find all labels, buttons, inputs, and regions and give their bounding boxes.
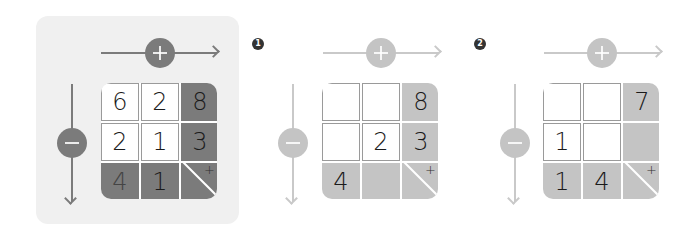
- plus-label: +: [646, 163, 657, 176]
- plus-circle-icon: [366, 38, 396, 68]
- minus-label: _: [627, 186, 634, 199]
- minus-circle-icon: [57, 128, 87, 158]
- arrow-right-icon: [650, 45, 663, 58]
- number-grid: 8 2 3 4 + _: [322, 83, 438, 199]
- plus-circle-icon: [587, 38, 617, 68]
- number-grid: 6 2 8 2 1 3 4 1 + _: [101, 83, 217, 199]
- minus-label: _: [406, 186, 413, 199]
- step-badge: 2: [474, 38, 486, 50]
- grid-cell: 1: [141, 123, 179, 161]
- number-grid: 7 1 1 4 + _: [543, 83, 659, 199]
- grid-cell: 2: [141, 83, 179, 121]
- grid-cell: [322, 123, 360, 161]
- grid-cell: 2: [362, 123, 400, 161]
- row-result-cell: [623, 123, 659, 161]
- grid-cell: [583, 123, 621, 161]
- minus-label: _: [185, 186, 192, 199]
- grid-cell: 1: [543, 123, 581, 161]
- row-result-cell: 8: [402, 83, 438, 121]
- column-result-cell: 1: [543, 163, 581, 199]
- minus-circle-icon: [500, 128, 530, 158]
- column-result-cell: [362, 163, 400, 199]
- minus-circle-icon: [278, 128, 308, 158]
- row-result-cell: 7: [623, 83, 659, 121]
- grid-cell: 2: [101, 123, 139, 161]
- row-result-cell: 3: [402, 123, 438, 161]
- grid-cell: 6: [101, 83, 139, 121]
- column-result-cell: 1: [141, 163, 179, 199]
- row-result-cell: 3: [181, 123, 217, 161]
- column-result-cell: 4: [322, 163, 360, 199]
- corner-cell: + _: [623, 163, 659, 199]
- corner-cell: + _: [181, 163, 217, 199]
- grid-cell: [583, 83, 621, 121]
- plus-circle-icon: [145, 38, 175, 68]
- column-result-cell: 4: [101, 163, 139, 199]
- corner-cell: + _: [402, 163, 438, 199]
- arrow-down-icon: [285, 192, 298, 205]
- row-result-cell: 8: [181, 83, 217, 121]
- column-result-cell: 4: [583, 163, 621, 199]
- arrow-down-icon: [507, 192, 520, 205]
- grid-cell: [322, 83, 360, 121]
- grid-cell: [362, 83, 400, 121]
- arrow-right-icon: [429, 45, 442, 58]
- plus-label: +: [425, 163, 436, 176]
- step-badge: 1: [252, 38, 264, 50]
- plus-label: +: [204, 163, 215, 176]
- grid-cell: [543, 83, 581, 121]
